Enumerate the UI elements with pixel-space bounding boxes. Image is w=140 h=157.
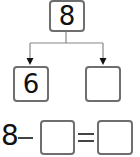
equals-sign — [78, 133, 94, 143]
part-left-value: 6 — [23, 71, 40, 97]
equation-minuend: 8 — [1, 122, 19, 150]
arrow-down-icon — [100, 58, 107, 65]
equation-blank-2[interactable] — [97, 120, 133, 155]
whole-box: 8 — [49, 0, 85, 32]
part-box-right-blank[interactable] — [85, 66, 121, 102]
equation-blank-1[interactable] — [40, 120, 75, 155]
minus-sign — [18, 137, 33, 139]
arrow-down-icon — [27, 58, 34, 65]
part-box-left: 6 — [13, 66, 49, 102]
whole-value: 8 — [59, 3, 76, 29]
